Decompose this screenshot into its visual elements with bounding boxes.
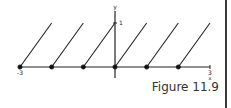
x-tick-label-neg3: -3 (17, 69, 23, 76)
sawtooth-segment (147, 23, 179, 67)
sawtooth-segment (115, 23, 147, 67)
figure-caption: Figure 11.9 (152, 80, 219, 94)
y-axis-label: y (113, 3, 117, 11)
y-tick-label-1: 1 (119, 19, 123, 26)
page-margin-rule (225, 0, 227, 108)
filled-endpoint-dot (145, 65, 149, 69)
filled-endpoint-dot (50, 65, 54, 69)
sawtooth-segment (178, 23, 210, 67)
filled-endpoint-dot (176, 65, 180, 69)
filled-endpoint-dot (81, 65, 85, 69)
filled-endpoint-dot (113, 65, 117, 69)
sawtooth-segment (20, 23, 52, 67)
sawtooth-segment (52, 23, 84, 67)
sawtooth-segment (83, 23, 115, 67)
